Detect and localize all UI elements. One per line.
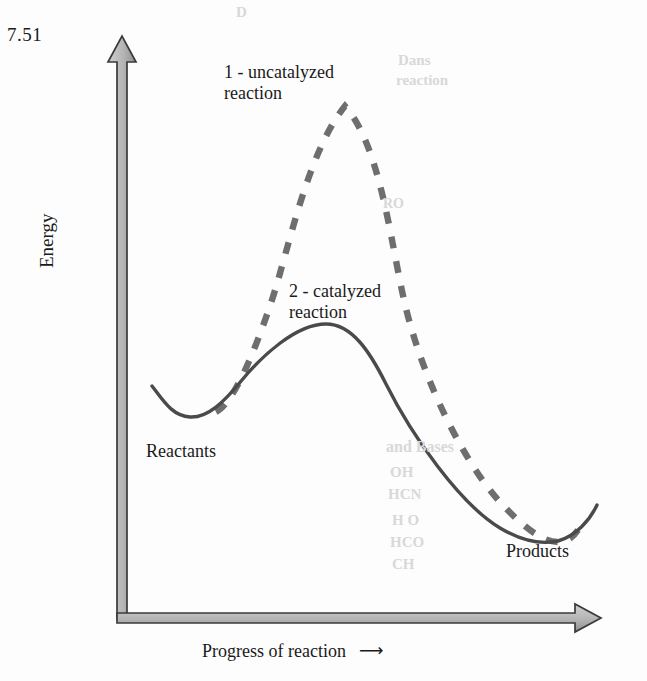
catalyzed-curve-label: 2 - catalyzed reaction bbox=[289, 281, 381, 323]
y-axis-label: Energy bbox=[36, 213, 58, 268]
reactants-label: Reactants bbox=[146, 441, 216, 462]
x-axis-label-text: Progress of reaction bbox=[202, 641, 346, 661]
catalyzed-curve bbox=[152, 324, 597, 542]
x-axis-label: Progress of reaction⟶ bbox=[202, 640, 381, 662]
uncatalyzed-curve bbox=[216, 106, 578, 542]
products-label: Products bbox=[506, 541, 569, 562]
y-axis-arrow bbox=[108, 36, 136, 618]
figure-page: 7.51 DDansreactionROand BasesOHHCNH OHCO… bbox=[0, 0, 647, 681]
uncatalyzed-curve-label: 1 - uncatalyzed reaction bbox=[224, 62, 334, 104]
x-axis-arrow bbox=[117, 604, 601, 632]
right-arrow-icon: ⟶ bbox=[359, 640, 381, 660]
